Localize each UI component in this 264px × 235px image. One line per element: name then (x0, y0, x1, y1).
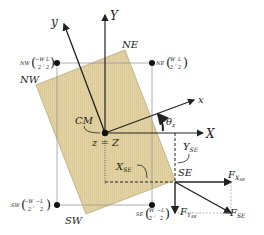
svg-text:,: , (33, 202, 35, 208)
svg-text:): ) (183, 55, 188, 70)
svg-text:SE: SE (136, 211, 143, 217)
body-x-label: x (198, 94, 204, 105)
svg-text:,: , (154, 211, 156, 217)
ne-dot (149, 60, 155, 66)
svg-text:SW: SW (11, 202, 20, 208)
y-se-label: YSE (183, 141, 199, 153)
svg-text:2: 2 (37, 64, 41, 70)
global-x-label: X (205, 127, 215, 141)
nw-coord: NW ( −W 2 , L 2 ) (19, 55, 55, 70)
svg-text:): ) (46, 197, 51, 212)
svg-text:2: 2 (39, 206, 43, 212)
fy-se-label: FYSE (179, 206, 197, 219)
sw-dot (54, 202, 60, 208)
svg-text:,: , (43, 60, 45, 66)
ne-label: NE (121, 39, 139, 50)
origin-label: z = Z (91, 137, 120, 148)
svg-text:−L: −L (157, 207, 165, 213)
y-se-leader (178, 154, 189, 163)
svg-text:2: 2 (45, 64, 49, 70)
svg-text:): ) (50, 55, 55, 70)
svg-text:−L: −L (36, 198, 44, 204)
sw-coord: SW ( −W 2 , −L 2 ) (11, 197, 51, 212)
se-label: SE (178, 167, 193, 178)
ne-coord: NE ( W 2 , L 2 ) (155, 55, 188, 70)
free-body-diagram: Y X y x θz CM z = Z NW NE SW SE NW ( −W … (0, 0, 264, 235)
svg-text:,: , (175, 60, 177, 66)
svg-text:NE: NE (155, 60, 164, 66)
svg-text:2: 2 (148, 215, 152, 221)
sw-label: SW (65, 215, 83, 226)
svg-text:NW: NW (19, 60, 30, 66)
svg-text:2: 2 (169, 64, 173, 70)
body-y-label: y (50, 15, 58, 29)
f-se-label: FSE (229, 207, 246, 219)
svg-text:2: 2 (27, 206, 31, 212)
angle-arc (158, 114, 163, 131)
svg-text:2: 2 (177, 64, 181, 70)
fx-se-label: FXSE (227, 169, 245, 182)
svg-text:): ) (165, 206, 170, 221)
svg-text:2: 2 (159, 215, 163, 221)
se-coord: SE ( W 2 , −L 2 ) (136, 206, 170, 221)
global-y-label: Y (110, 9, 119, 23)
cm-point (102, 130, 108, 136)
svg-text:L: L (177, 56, 182, 62)
nw-label: NW (19, 74, 40, 85)
angle-label: θz (166, 116, 176, 128)
cm-label: CM (75, 115, 94, 126)
